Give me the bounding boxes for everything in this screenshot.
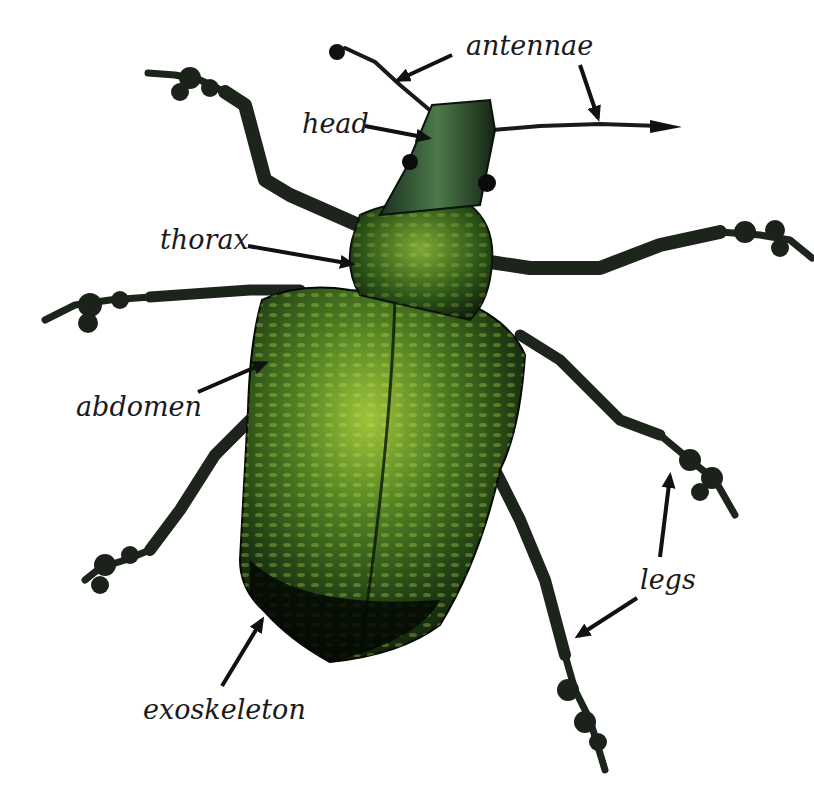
arrow-exoskeleton [222, 620, 262, 686]
arrow-thorax [248, 246, 352, 264]
label-antennae: antennae [466, 32, 593, 59]
label-head: head [302, 110, 369, 137]
label-abdomen: abdomen [76, 393, 202, 420]
arrow-abdomen [198, 363, 265, 392]
label-exoskeleton: exoskeleton [143, 696, 306, 723]
arrow-antennae-left [398, 55, 452, 80]
arrow-head [365, 126, 428, 138]
arrow-antennae-right [580, 65, 598, 118]
label-thorax: thorax [160, 226, 249, 253]
label-legs: legs [640, 566, 696, 593]
arrow-legs-upper [660, 476, 670, 557]
beetle-anatomy-diagram: antennae head thorax abdomen legs exoske… [0, 0, 814, 787]
arrow-legs-lower [578, 598, 637, 636]
